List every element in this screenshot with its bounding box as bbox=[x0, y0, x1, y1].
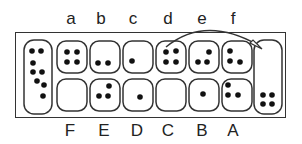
pit-b bbox=[90, 41, 120, 73]
right-store-seeds bbox=[260, 92, 275, 107]
pit-c-seeds bbox=[129, 58, 135, 64]
pit-e-seeds bbox=[195, 49, 212, 65]
pit-B-seeds bbox=[200, 91, 206, 97]
pit-E-seeds bbox=[96, 83, 112, 99]
board-drawing bbox=[0, 0, 302, 144]
pit-A-seeds bbox=[225, 82, 241, 98]
pit-a bbox=[57, 41, 87, 73]
left-store-seeds bbox=[29, 48, 47, 99]
pit-D-seeds bbox=[137, 94, 143, 100]
pit-b-seeds bbox=[95, 60, 111, 66]
pit-D bbox=[123, 79, 153, 111]
pit-c bbox=[123, 41, 153, 73]
pit-d-seeds bbox=[163, 48, 179, 65]
pit-C bbox=[156, 79, 186, 111]
pit-f bbox=[222, 41, 252, 73]
right-store bbox=[254, 40, 282, 114]
pit-a-seeds bbox=[64, 49, 80, 65]
pit-F bbox=[57, 79, 87, 111]
pit-f-seeds bbox=[227, 48, 243, 65]
pit-E bbox=[90, 79, 120, 111]
left-store bbox=[24, 40, 52, 114]
pit-d bbox=[156, 41, 186, 73]
pit-e bbox=[189, 41, 219, 73]
move-arrow bbox=[166, 30, 258, 47]
